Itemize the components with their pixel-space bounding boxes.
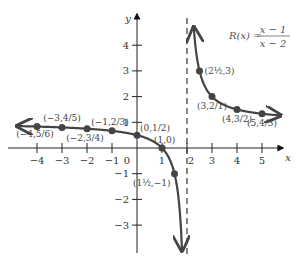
point-label: (1,0) [154,135,175,145]
x-tick-label: 1 [159,155,165,166]
data-point [84,125,91,132]
x-tick-label: 5 [259,155,265,166]
data-point [109,127,116,134]
point-label: (−3,4/5) [43,113,81,123]
data-point [59,124,66,131]
x-tick-label: −1 [105,155,120,166]
x-tick-label: −4 [30,155,45,166]
rational-function-graph: xy−4−3−2−10123454321−1−2−3 (−4,5/6)(−3,4… [0,0,300,261]
y-tick-label: 4 [123,40,129,51]
point-label: (2½,3) [205,66,235,76]
point-label: (5,4/3) [247,118,277,128]
curves [17,27,281,251]
equation-numerator: x − 1 [260,24,287,35]
data-point [259,110,266,117]
data-point [159,145,166,152]
x-tick-label: 4 [234,155,240,166]
data-point [196,67,203,74]
equation-denominator: x − 2 [260,38,287,49]
point-label: (3,2/1) [197,101,227,111]
x-tick-label: 3 [209,155,215,166]
equation-lhs: R(x) = [228,30,262,41]
x-tick-label: −3 [55,155,70,166]
x-tick-label: −2 [80,155,95,166]
y-tick-label: 2 [123,91,129,102]
y-axis-label: y [124,13,131,24]
x-axis-label: x [285,152,291,163]
y-tick-label: −2 [114,194,129,205]
x-tick-label: 2 [188,155,194,166]
y-tick-label: 3 [123,65,129,76]
point-label: (−1,2/3) [91,117,129,127]
point-label: (−2,3/4) [66,133,104,143]
data-point [171,170,178,177]
point-label: (1½,−1) [133,178,171,188]
equation-label: R(x) =x − 1x − 2 [228,24,290,49]
data-point [234,106,241,113]
point-label: (0,1/2) [140,123,170,133]
y-tick-label: −3 [114,220,129,231]
x-tick-label: 0 [124,155,130,166]
point-label: (−4,5/6) [16,129,54,139]
data-point [209,93,216,100]
y-tick-label: −1 [114,168,129,179]
